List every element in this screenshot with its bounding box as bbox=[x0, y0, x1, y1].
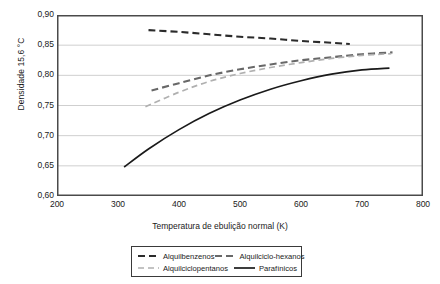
series-paths bbox=[124, 30, 392, 167]
legend-entry-alquilciclo-hexanos: Alquilciclo-hexanos bbox=[215, 250, 305, 262]
x-tick-label: 600 bbox=[281, 199, 321, 209]
legend-label-alquilbenzenos: Alquilbenzenos bbox=[163, 252, 215, 261]
legend-entry-parafinicos: Parafínicos bbox=[234, 262, 297, 274]
series-line-alquilciclopentanos bbox=[145, 54, 391, 107]
x-axis-title: Temperatura de ebulição normal (K) bbox=[0, 221, 440, 231]
y-tick-label: 0,85 bbox=[20, 40, 54, 49]
x-tick-label: 300 bbox=[98, 199, 138, 209]
legend-swatch-alquilciclo-hexanos bbox=[215, 252, 236, 260]
legend-label-alquilciclo-hexanos: Alquilciclo-hexanos bbox=[240, 252, 305, 261]
gridlines bbox=[57, 45, 423, 166]
y-tick-label: 0,80 bbox=[20, 70, 54, 79]
plot-svg bbox=[57, 15, 423, 196]
legend-entry-alquilbenzenos: Alquilbenzenos bbox=[138, 250, 215, 262]
y-tick-label: 0,90 bbox=[20, 10, 54, 19]
x-tick-label: 700 bbox=[342, 199, 382, 209]
x-tick-label: 200 bbox=[37, 199, 77, 209]
x-tick-label: 500 bbox=[220, 199, 260, 209]
y-tick-label: 0,75 bbox=[20, 101, 54, 110]
legend-label-parafinicos: Parafínicos bbox=[259, 264, 297, 273]
x-axis-tick-labels: 200300400500600700800 bbox=[0, 199, 440, 213]
x-tick-label: 800 bbox=[403, 199, 440, 209]
y-axis-tick-labels: 0,600,650,700,750,800,850,90 bbox=[16, 0, 54, 284]
legend-swatch-alquilbenzenos bbox=[138, 252, 159, 260]
series-line-paraf-nicos bbox=[124, 68, 389, 167]
plot-area bbox=[57, 15, 423, 196]
chart-legend: Alquilbenzenos Alquilciclo-hexanos Alqui… bbox=[131, 246, 302, 277]
legend-label-alquilciclopentanos: Alquilciclopentanos bbox=[163, 264, 228, 273]
y-tick-label: 0,65 bbox=[20, 161, 54, 170]
y-tick-label: 0,70 bbox=[20, 131, 54, 140]
legend-swatch-parafinicos bbox=[234, 264, 255, 272]
legend-row: Alquilbenzenos Alquilciclo-hexanos bbox=[138, 250, 297, 262]
density-vs-boiling-point-chart: Densidade 15,6 °C 0,600,650,700,750,800,… bbox=[0, 0, 440, 284]
legend-swatch-alquilciclopentanos bbox=[138, 264, 159, 272]
series-line-alquilbenzenos bbox=[149, 30, 350, 44]
x-tick-label: 400 bbox=[159, 199, 199, 209]
legend-entry-alquilciclopentanos: Alquilciclopentanos bbox=[138, 262, 234, 274]
legend-row: Alquilciclopentanos Parafínicos bbox=[138, 262, 297, 274]
series-line-alquilciclo-hexanos bbox=[152, 52, 393, 90]
